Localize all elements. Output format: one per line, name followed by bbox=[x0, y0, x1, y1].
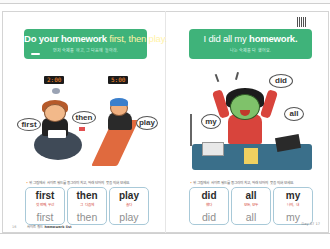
instruction-text: 위 그림에서 사이트 워드를 동그라미 치고, 아래 단어의 뜻을 익혀 보세요… bbox=[193, 181, 294, 185]
excitement-line-icon bbox=[235, 72, 239, 80]
right-page-footer: Day 07 17 bbox=[301, 222, 320, 226]
footer-label: 사이트 워드 bbox=[27, 225, 44, 229]
left-page-footer: 16 사이트 워드 homework list bbox=[12, 224, 72, 229]
play-kid-hat bbox=[110, 98, 128, 106]
footer-label-bold: homework list bbox=[45, 225, 72, 229]
card-trace-word: then bbox=[68, 211, 106, 224]
card-word: all bbox=[232, 190, 270, 202]
word-card-first: first 첫 번째, 우선 first bbox=[25, 187, 65, 225]
word-bubble-all: all bbox=[284, 107, 304, 121]
desk-lamp-icon bbox=[190, 114, 192, 146]
qr-code-icon[interactable] bbox=[297, 17, 307, 27]
arrow-icon bbox=[79, 127, 85, 131]
kid-face bbox=[230, 94, 260, 120]
previous-page-edge bbox=[0, 0, 330, 4]
card-meaning: 했다 bbox=[190, 203, 228, 208]
homework-paper bbox=[48, 130, 66, 138]
banner-sentence-prefix: I did all my bbox=[204, 33, 249, 44]
exercise-instruction: • 위 그림에서 사이트 워드를 동그라미 치고, 아래 단어의 뜻을 익혀 보… bbox=[26, 180, 130, 185]
card-word: first bbox=[26, 190, 64, 202]
digital-clock-icon: 5:00 bbox=[108, 76, 128, 84]
excitement-line-icon bbox=[215, 74, 220, 82]
thought-scribble-icon bbox=[52, 88, 60, 94]
word-bubble-then: then bbox=[72, 111, 96, 124]
kid-face bbox=[44, 104, 66, 122]
banner-sentence-highlight: first, then play. bbox=[109, 33, 167, 44]
digital-clock-icon: 2:00 bbox=[44, 76, 64, 84]
sight-word-cards: did 했다 did all 모든, 모두 all my 나의, 내 my bbox=[189, 187, 313, 225]
card-word: my bbox=[274, 190, 312, 202]
page-gutter bbox=[165, 11, 166, 233]
page-number: 16 bbox=[12, 225, 16, 229]
card-word: did bbox=[190, 190, 228, 202]
card-trace-word: first bbox=[26, 211, 64, 224]
card-trace-word: did bbox=[190, 211, 228, 224]
banner-translation: 나는 숙제를 다 했어요. bbox=[189, 47, 312, 53]
word-bubble-first: first bbox=[17, 118, 41, 131]
sight-word-cards: first 첫 번째, 우선 first then 그 다음에 then pla… bbox=[25, 187, 149, 225]
card-meaning: 나의, 내 bbox=[274, 203, 312, 208]
instruction-bullet-icon: • bbox=[26, 181, 28, 185]
word-card-my: my 나의, 내 my bbox=[273, 187, 313, 225]
card-meaning: 그 다음에 bbox=[68, 203, 106, 208]
word-card-play: play 놀다 play bbox=[109, 187, 149, 225]
instruction-bullet-icon: • bbox=[190, 181, 192, 185]
card-word: then bbox=[68, 190, 106, 202]
sentence-banner: I did all my homework. 나는 숙제를 다 했어요. bbox=[189, 29, 312, 59]
word-bubble-my: my bbox=[201, 114, 221, 129]
card-word: play bbox=[110, 190, 148, 202]
card-meaning: 모든, 모두 bbox=[232, 203, 270, 208]
laptop-icon bbox=[202, 142, 224, 156]
notebook-icon bbox=[244, 148, 258, 164]
word-card-did: did 했다 did bbox=[189, 187, 229, 225]
card-meaning: 첫 번째, 우선 bbox=[26, 203, 64, 208]
card-trace-word: play bbox=[110, 211, 148, 224]
right-page: I did all my homework. 나는 숙제를 다 했어요. did… bbox=[168, 12, 328, 232]
card-trace-word: all bbox=[232, 211, 270, 224]
word-bubble-did: did bbox=[269, 74, 293, 88]
exercise-instruction: • 위 그림에서 사이트 워드를 동그라미 치고, 아래 단어의 뜻을 익혀 보… bbox=[190, 180, 294, 185]
word-bubble-play: play bbox=[136, 116, 158, 130]
banner-sentence-prefix: Do your homework bbox=[24, 33, 109, 44]
banner-sentence: Do your homework first, then play. bbox=[24, 33, 147, 44]
banner-dash-icon bbox=[31, 53, 40, 55]
left-page: Do your homework first, then play. 먼저 숙제… bbox=[4, 12, 164, 232]
spread-bottom-edge bbox=[0, 233, 330, 234]
word-card-then: then 그 다음에 then bbox=[67, 187, 107, 225]
sentence-banner: Do your homework first, then play. 먼저 숙제… bbox=[24, 29, 147, 59]
banner-sentence-highlight: homework. bbox=[249, 33, 297, 44]
card-meaning: 놀다 bbox=[110, 203, 148, 208]
banner-sentence: I did all my homework. bbox=[189, 33, 312, 44]
instruction-text: 위 그림에서 사이트 워드를 동그라미 치고, 아래 단어의 뜻을 익혀 보세요… bbox=[29, 181, 130, 185]
banner-translation: 먼저 숙제를 하고, 그 다음에 놀아라. bbox=[24, 47, 147, 53]
word-card-all: all 모든, 모두 all bbox=[231, 187, 271, 225]
